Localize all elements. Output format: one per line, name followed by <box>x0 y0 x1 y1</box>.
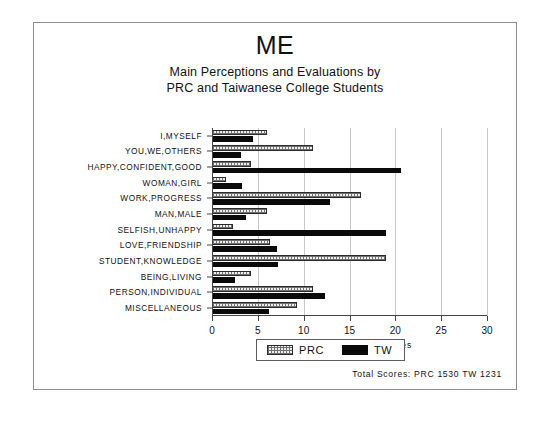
bar-prc <box>212 130 267 136</box>
x-axis-tick-label: 15 <box>344 325 355 336</box>
x-axis-tick-label: 0 <box>209 325 215 336</box>
bar-tw <box>212 168 401 174</box>
x-axis-tick-label: 20 <box>390 325 401 336</box>
x-axis-tick <box>304 316 305 321</box>
bar-tw <box>212 230 386 236</box>
bar-prc <box>212 177 226 183</box>
bar-row: I,MYSELF <box>212 128 487 144</box>
bar-row: LOVE,FRIENDSHIP <box>212 238 487 254</box>
category-label: SELFISH,UNHAPPY <box>118 225 203 235</box>
total-scores-note: Total Scores: PRC 1530 TW 1231 <box>352 369 502 379</box>
bar-row: MISCELLANEOUS <box>212 300 487 316</box>
plot-area: I,MYSELFYOU,WE,OTHERSHAPPY,CONFIDENT,GOO… <box>34 23 518 391</box>
bar-tw <box>212 262 278 268</box>
bar-row: YOU,WE,OTHERS <box>212 144 487 160</box>
bar-row: HAPPY,CONFIDENT,GOOD <box>212 159 487 175</box>
x-axis-tick <box>487 316 488 321</box>
legend-label-tw: TW <box>374 344 392 356</box>
category-label: STUDENT,KNOWLEDGE <box>99 256 202 266</box>
bar-tw <box>212 183 242 189</box>
category-label: MAN,MALE <box>155 209 202 219</box>
bar-tw <box>212 309 269 315</box>
category-label: HAPPY,CONFIDENT,GOOD <box>88 162 203 172</box>
bar-row: MAN,MALE <box>212 206 487 222</box>
bar-tw <box>212 152 241 158</box>
bar-chart-plot: I,MYSELFYOU,WE,OTHERSHAPPY,CONFIDENT,GOO… <box>212 128 487 316</box>
category-label: I,MYSELF <box>160 131 202 141</box>
bar-prc <box>212 192 361 198</box>
category-label: WOMAN,GIRL <box>143 178 202 188</box>
legend-swatch-prc-icon <box>267 345 293 355</box>
bar-prc <box>212 302 297 308</box>
category-label: MISCELLANEOUS <box>125 303 202 313</box>
bar-tw <box>212 277 235 283</box>
bar-row: PERSON,INDIVIDUAL <box>212 285 487 301</box>
bar-prc <box>212 145 313 151</box>
legend: PRC TW <box>256 339 405 361</box>
bar-tw <box>212 136 253 142</box>
bar-row: STUDENT,KNOWLEDGE <box>212 253 487 269</box>
bar-tw <box>212 215 246 221</box>
category-label: YOU,WE,OTHERS <box>125 146 202 156</box>
bar-prc <box>212 208 267 214</box>
legend-item-tw: TW <box>342 344 392 356</box>
category-label: LOVE,FRIENDSHIP <box>120 240 202 250</box>
x-axis-tick-label: 10 <box>298 325 309 336</box>
y-axis-line <box>212 128 213 316</box>
x-axis-tick <box>441 316 442 321</box>
bar-prc <box>212 239 270 245</box>
bar-row: SELFISH,UNHAPPY <box>212 222 487 238</box>
bar-row: BEING,LIVING <box>212 269 487 285</box>
legend-label-prc: PRC <box>299 344 324 356</box>
bar-prc <box>212 161 251 167</box>
x-axis-tick-label: 25 <box>436 325 447 336</box>
bar-tw <box>212 293 325 299</box>
bar-row: WORK,PROGRESS <box>212 191 487 207</box>
x-axis-tick <box>212 316 213 321</box>
legend-item-prc: PRC <box>267 344 324 356</box>
bar-tw <box>212 199 330 205</box>
category-label: WORK,PROGRESS <box>120 193 202 203</box>
legend-swatch-tw-icon <box>342 345 368 355</box>
x-axis-tick <box>258 316 259 321</box>
bar-prc <box>212 255 386 261</box>
bar-prc <box>212 271 251 277</box>
category-label: PERSON,INDIVIDUAL <box>110 287 202 297</box>
gridline <box>487 128 488 316</box>
x-axis-tick-label: 30 <box>481 325 492 336</box>
x-axis-tick-label: 5 <box>255 325 261 336</box>
x-axis-tick <box>395 316 396 321</box>
figure-frame: ME Main Perceptions and Evaluations by P… <box>33 22 517 390</box>
bar-prc <box>212 286 313 292</box>
bar-row: WOMAN,GIRL <box>212 175 487 191</box>
bar-tw <box>212 246 277 252</box>
x-axis-tick <box>350 316 351 321</box>
bar-prc <box>212 224 233 230</box>
category-label: BEING,LIVING <box>141 272 202 282</box>
